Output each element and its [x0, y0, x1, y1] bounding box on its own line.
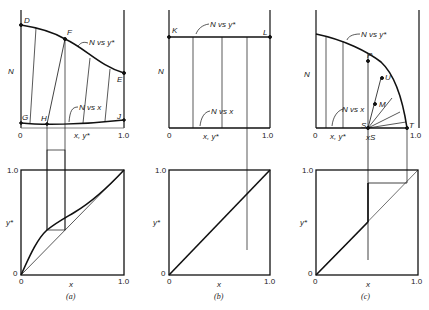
x-tick-start-a-bottom: 0: [19, 277, 24, 286]
y-axis-label-c-bottom: y*: [299, 218, 308, 227]
x-tick-end-a-bottom: 1.0: [118, 277, 130, 286]
y-tick-bottom-a: 0: [13, 269, 18, 278]
curve-label-upper-b: N vs y*: [210, 20, 236, 29]
caption-a: (a): [66, 292, 76, 301]
x-axis-label-c-bottom: x: [365, 280, 371, 289]
y-tick-top-c: 1.0: [302, 166, 314, 175]
point-label-d: D: [24, 16, 30, 25]
y-axis-label-c-top: N: [304, 70, 310, 79]
point-label-j: J: [116, 112, 122, 121]
point-label-t: T: [409, 121, 415, 130]
caption-c: (c): [361, 292, 370, 301]
x-tick-end-c-top: 1.0: [410, 131, 422, 140]
point-label-h: H: [41, 114, 47, 123]
panel-b-top: [168, 10, 272, 250]
x-marker-label-xs: xS: [365, 133, 376, 142]
x-tick-end-b-top: 1.0: [262, 131, 274, 140]
panel-b-bottom: [169, 170, 270, 275]
curve-label-lower-c: N vs x: [342, 105, 365, 114]
x-axis-label-b-bottom: x: [216, 280, 222, 289]
x-tick-start-c-top: 0: [313, 131, 318, 140]
figure: D F E G H J N vs y* N vs x N 0 x, y* 1.0…: [0, 0, 429, 310]
y-axis-label-a-top: N: [8, 67, 14, 76]
point-label-g: G: [22, 113, 28, 122]
y-tick-bottom-b: 0: [161, 269, 166, 278]
point-label-m: M: [379, 100, 386, 109]
point-label-s: S: [361, 121, 367, 130]
curve-label-upper-a: N vs y*: [89, 38, 115, 47]
x-tick-end-c-bottom: 1.0: [411, 277, 423, 286]
point-label-f: F: [67, 28, 73, 37]
point-label-k: K: [172, 26, 178, 35]
x-tick-end-b-bottom: 1.0: [264, 277, 276, 286]
panel-c-bottom: [316, 170, 418, 275]
curve-label-lower-a: N vs x: [79, 103, 102, 112]
y-axis-label-b-top: N: [158, 67, 164, 76]
x-axis-label-b-top: x, y*: [202, 132, 219, 141]
x-axis-label-a-bottom: x: [68, 280, 74, 289]
curve-label-upper-c: N vs y*: [361, 30, 387, 39]
point-label-l: L: [263, 28, 267, 37]
x-tick-start-a-top: 0: [18, 131, 23, 140]
caption-b: (b): [214, 292, 224, 301]
point-label-p: P: [367, 51, 373, 60]
y-axis-label-b-bottom: y*: [152, 218, 161, 227]
panel-a-bottom: [21, 150, 124, 275]
y-axis-label-a-bottom: y*: [5, 218, 14, 227]
curve-label-lower-b: N vs x: [211, 107, 234, 116]
x-tick-start-c-bottom: 0: [313, 277, 318, 286]
x-tick-start-b-top: 0: [167, 131, 172, 140]
x-tick-end-a-top: 1.0: [118, 131, 130, 140]
x-axis-label-c-top: x, y*: [329, 132, 346, 141]
y-tick-top-a: 1.0: [7, 166, 19, 175]
x-tick-start-b-bottom: 0: [167, 277, 172, 286]
point-label-e: E: [117, 75, 123, 84]
y-tick-top-b: 1.0: [155, 166, 167, 175]
x-axis-label-a-top: x, y*: [73, 131, 90, 140]
point-label-u: U: [385, 73, 391, 82]
